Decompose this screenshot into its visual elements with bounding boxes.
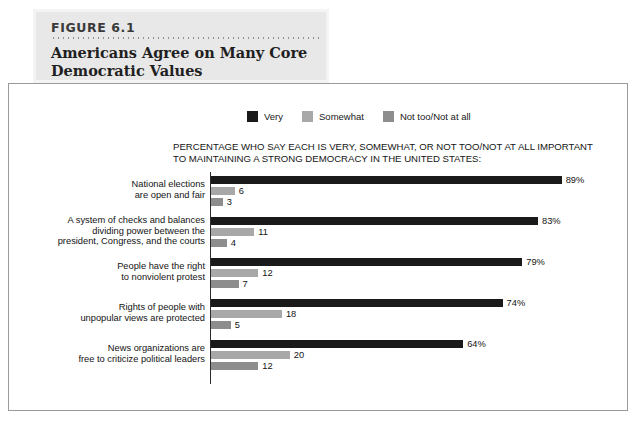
figure-title-line-2: Democratic Values (51, 62, 203, 79)
bar-row: 3 (211, 198, 232, 206)
bar-row: 4 (211, 239, 236, 247)
category-label: National electionsare open and fair (5, 179, 205, 200)
bar-rect (211, 321, 231, 329)
bar-rect (211, 362, 258, 370)
bar-row: 79% (211, 258, 545, 266)
category-label-line: National elections (5, 179, 205, 190)
bar-rect (211, 198, 223, 206)
figure-title: Americans Agree on Many Core Democratic … (51, 44, 321, 79)
category-label: News organizations arefree to criticize … (5, 343, 205, 364)
bar-rect (211, 228, 254, 236)
category-label-line: Rights of people with (5, 302, 205, 313)
category-label: People have the rightto nonviolent prote… (5, 261, 205, 282)
category-label-line: People have the right (5, 261, 205, 272)
bar-rect (211, 269, 258, 277)
bar-value-label: 12 (262, 269, 272, 278)
figure-number: FIGURE 6.1 (51, 21, 326, 34)
category-label-line: dividing power between the (5, 226, 205, 237)
bar-value-label: 83% (542, 217, 561, 226)
bar-row: 64% (211, 340, 486, 348)
bar-value-label: 89% (566, 176, 585, 185)
category-label: Rights of people withunpopular views are… (5, 302, 205, 323)
bar-rect (211, 217, 538, 225)
category-label-line: to nonviolent protest (5, 272, 205, 283)
legend-swatch-not-too (383, 111, 394, 122)
legend-item-very: Very (247, 111, 283, 122)
bar-row: 74% (211, 299, 525, 307)
bar-row: 83% (211, 217, 561, 225)
bar-value-label: 64% (467, 340, 486, 349)
bar-value-label: 79% (526, 258, 545, 267)
bar-row: 18 (211, 310, 296, 318)
bar-value-label: 74% (507, 299, 526, 308)
chart-plot-area: National electionsare open and fair89%63… (19, 172, 619, 392)
category-label-line: are open and fair (5, 190, 205, 201)
bar-row: 12 (211, 269, 273, 277)
legend-item-not-too: Not too/Not at all (383, 111, 471, 122)
bar-value-label: 11 (258, 228, 268, 237)
legend-item-somewhat: Somewhat (302, 111, 364, 122)
chart-subtitle: PERCENTAGE WHO SAY EACH IS VERY, SOMEWHA… (173, 141, 593, 164)
category-label: A system of checks and balancesdividing … (5, 215, 205, 247)
bar-rect (211, 176, 562, 184)
legend-label-somewhat: Somewhat (319, 111, 364, 122)
figure-frame: Very Somewhat Not too/Not at all PERCENT… (8, 83, 628, 411)
bar-row: 6 (211, 187, 244, 195)
figure-header-panel: FIGURE 6.1 Americans Agree on Many Core … (33, 9, 329, 83)
figure-title-line-1: Americans Agree on Many Core (51, 44, 307, 61)
bar-rect (211, 258, 522, 266)
bar-rect (211, 351, 290, 359)
bar-value-label: 7 (243, 280, 248, 289)
category-label-line: A system of checks and balances (5, 215, 205, 226)
bar-row: 5 (211, 321, 240, 329)
bar-row: 12 (211, 362, 273, 370)
bar-row: 11 (211, 228, 268, 236)
bar-value-label: 18 (286, 310, 296, 319)
bar-value-label: 12 (262, 362, 272, 371)
bar-rect (211, 299, 503, 307)
bar-row: 7 (211, 280, 248, 288)
bar-rect (211, 239, 227, 247)
bar-rect (211, 340, 463, 348)
bar-value-label: 6 (239, 187, 244, 196)
bar-rect (211, 310, 282, 318)
legend-label-not-too: Not too/Not at all (400, 111, 471, 122)
category-label-line: free to criticize political leaders (5, 354, 205, 365)
dotted-divider (51, 37, 319, 39)
bar-row: 20 (211, 351, 304, 359)
category-label-line: unpopular views are protected (5, 313, 205, 324)
bar-value-label: 20 (294, 351, 304, 360)
legend-swatch-very (247, 111, 258, 122)
bar-value-label: 4 (231, 239, 236, 248)
bar-value-label: 5 (235, 321, 240, 330)
legend-label-very: Very (264, 111, 283, 122)
bar-value-label: 3 (227, 198, 232, 207)
bar-rect (211, 187, 235, 195)
legend-swatch-somewhat (302, 111, 313, 122)
category-label-line: News organizations are (5, 343, 205, 354)
chart-legend: Very Somewhat Not too/Not at all (247, 111, 471, 122)
bar-row: 89% (211, 176, 584, 184)
category-label-line: president, Congress, and the courts (5, 236, 205, 247)
bar-rect (211, 280, 239, 288)
